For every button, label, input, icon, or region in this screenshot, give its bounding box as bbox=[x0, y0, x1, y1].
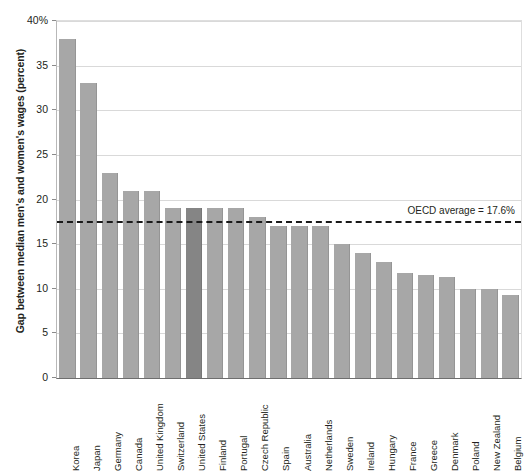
x-tick-label-text: Poland bbox=[471, 441, 481, 471]
x-tick-label: Portugal bbox=[239, 436, 249, 471]
bar bbox=[249, 217, 265, 378]
x-tick-label-text: Canada bbox=[134, 438, 144, 471]
bar bbox=[59, 39, 75, 378]
y-tick-label: 0 bbox=[4, 372, 48, 383]
bar bbox=[502, 295, 518, 378]
x-tick-label: Denmark bbox=[450, 432, 460, 471]
y-tick-mark bbox=[52, 288, 56, 289]
x-tick-label-text: New Zealand bbox=[492, 415, 502, 471]
bar bbox=[144, 191, 160, 378]
bar bbox=[439, 277, 455, 378]
y-tick-mark bbox=[52, 20, 56, 21]
x-tick-label: United States bbox=[197, 414, 207, 471]
x-tick-label-text: Belgium bbox=[513, 437, 523, 471]
x-tick-label-text: Finland bbox=[218, 440, 228, 471]
bar bbox=[207, 208, 223, 378]
y-tick-label: 25 bbox=[4, 149, 48, 160]
bar bbox=[334, 244, 350, 378]
y-tick-mark bbox=[52, 377, 56, 378]
x-tick-label-text: Korea bbox=[71, 446, 81, 471]
wage-gap-bar-chart: Gap between median men's and women's wag… bbox=[0, 0, 531, 473]
x-tick-label-text: United States bbox=[197, 414, 207, 471]
y-tick-mark bbox=[52, 199, 56, 200]
x-tick-label-text: Greece bbox=[429, 440, 439, 471]
x-tick-label: Germany bbox=[113, 432, 123, 471]
bar bbox=[165, 208, 181, 378]
x-tick-label: Belgium bbox=[513, 437, 523, 471]
x-tick-label-text: Germany bbox=[113, 432, 123, 471]
bar bbox=[397, 273, 413, 378]
x-tick-label-text: Switzerland bbox=[176, 422, 186, 471]
bar bbox=[460, 289, 476, 378]
y-tick-mark bbox=[52, 332, 56, 333]
x-tick-label-text: Portugal bbox=[239, 436, 249, 471]
x-axis-labels: KoreaJapanGermanyCanadaUnited KingdomSwi… bbox=[56, 379, 520, 473]
x-tick-label: Netherlands bbox=[324, 420, 334, 471]
x-tick-label-text: France bbox=[408, 441, 418, 471]
bar bbox=[186, 208, 202, 378]
x-tick-label-text: Denmark bbox=[450, 432, 460, 471]
bars-group bbox=[57, 21, 521, 378]
bar bbox=[418, 275, 434, 378]
x-tick-label-text: Ireland bbox=[366, 442, 376, 471]
x-tick-label-text: Spain bbox=[281, 447, 291, 471]
x-tick-label-text: Czech Republic bbox=[260, 404, 270, 471]
x-tick-label-text: Australia bbox=[303, 434, 313, 471]
x-tick-label: Japan bbox=[92, 445, 102, 471]
bar bbox=[291, 226, 307, 378]
y-tick-mark bbox=[52, 109, 56, 110]
x-tick-label-text: Netherlands bbox=[324, 420, 334, 471]
x-tick-label: United Kingdom bbox=[155, 403, 165, 471]
y-tick-label: 10 bbox=[4, 283, 48, 294]
x-tick-label-text: Hungary bbox=[387, 435, 397, 471]
x-tick-label-text: Japan bbox=[92, 445, 102, 471]
y-tick-label: 35 bbox=[4, 60, 48, 71]
bar bbox=[355, 253, 371, 378]
x-tick-label: Czech Republic bbox=[260, 404, 270, 471]
bar bbox=[270, 226, 286, 378]
y-tick-mark bbox=[52, 65, 56, 66]
x-tick-label: Canada bbox=[134, 438, 144, 471]
x-tick-label: Greece bbox=[429, 440, 439, 471]
bar bbox=[312, 226, 328, 378]
bar bbox=[80, 83, 96, 378]
oecd-average-label: OECD average = 17.6% bbox=[405, 204, 517, 217]
y-tick-mark bbox=[52, 154, 56, 155]
y-tick-label: 15 bbox=[4, 238, 48, 249]
y-tick-label: 40% bbox=[4, 15, 48, 26]
x-tick-label: Finland bbox=[218, 440, 228, 471]
bar bbox=[102, 173, 118, 378]
x-tick-label: France bbox=[408, 441, 418, 471]
x-tick-label: New Zealand bbox=[492, 415, 502, 471]
bar bbox=[123, 191, 139, 378]
y-tick-label: 20 bbox=[4, 194, 48, 205]
x-tick-label: Switzerland bbox=[176, 422, 186, 471]
x-tick-label: Hungary bbox=[387, 435, 397, 471]
bar bbox=[481, 289, 497, 378]
x-tick-label: Poland bbox=[471, 441, 481, 471]
y-tick-label: 30 bbox=[4, 104, 48, 115]
y-tick-mark bbox=[52, 243, 56, 244]
x-tick-label-text: United Kingdom bbox=[155, 403, 165, 471]
x-tick-label-text: Sweden bbox=[345, 437, 355, 471]
bar bbox=[228, 208, 244, 378]
y-tick-label: 5 bbox=[4, 327, 48, 338]
x-tick-label: Korea bbox=[71, 446, 81, 471]
bar bbox=[376, 262, 392, 378]
x-tick-label: Ireland bbox=[366, 442, 376, 471]
oecd-average-line bbox=[57, 221, 521, 223]
x-tick-label: Spain bbox=[281, 447, 291, 471]
x-tick-label: Australia bbox=[303, 434, 313, 471]
plot-area: OECD average = 17.6% bbox=[56, 20, 522, 379]
x-tick-label: Sweden bbox=[345, 437, 355, 471]
